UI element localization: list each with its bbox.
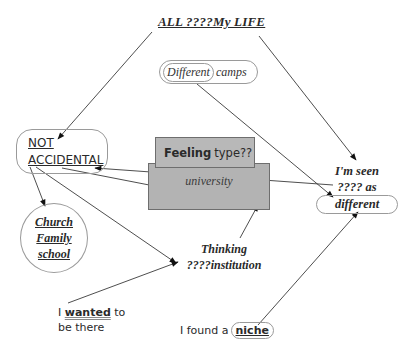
school-label: school (21, 246, 87, 262)
found-label: I found a (180, 324, 229, 337)
to-label: to (114, 306, 125, 319)
node-church-family-school: Church Family school (20, 203, 88, 273)
church-label: Church (21, 214, 87, 230)
be-there-label: be there (58, 320, 125, 335)
node-feeling-type: Feeling type?? (155, 137, 255, 168)
concept-map: ALL ????My LIFE Different camps NOT ACCI… (0, 0, 415, 358)
family-label: Family (21, 230, 87, 246)
institution-label: ????institution (180, 257, 268, 273)
node-im-seen: I'm seen ???? as (318, 163, 396, 195)
node-not-accidental: NOT ACCIDENTAL (16, 129, 108, 174)
different-box: different (316, 195, 398, 214)
edge-title-to-not-accidental (58, 32, 152, 139)
edge-niche-to-seen (258, 212, 358, 325)
different-label: Different (163, 63, 214, 82)
feeling-label: Feeling (164, 146, 211, 160)
wanted-label: wanted (65, 306, 111, 319)
edge-title-to-seen (259, 36, 356, 160)
node-thinking-institution: Thinking ????institution (180, 241, 268, 273)
camps-label: camps (216, 65, 247, 80)
im-seen-label: I'm seen (318, 163, 396, 179)
niche-label: niche (231, 322, 274, 339)
university-label: university (148, 174, 270, 189)
accidental-label: ACCIDENTAL (28, 152, 107, 169)
as-label: ???? as (318, 179, 396, 195)
node-i-wanted: I wanted to be there (58, 305, 125, 335)
i-label: I (58, 306, 61, 319)
type-label: type?? (214, 146, 252, 160)
thinking-label: Thinking (180, 241, 268, 257)
edge-wanted-to-thinking (68, 262, 178, 303)
diagram-title: ALL ????My LIFE (158, 14, 265, 30)
not-label: NOT (28, 135, 107, 152)
node-found-niche: I found a niche (180, 322, 274, 339)
node-different-camps: Different camps (159, 60, 258, 84)
